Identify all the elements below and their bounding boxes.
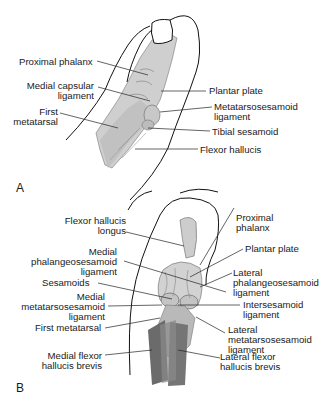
- panel-letter-b: B: [16, 381, 24, 395]
- label-a-metatarsosesamoid-ligament: Metatarsosesamoid ligament: [214, 102, 298, 122]
- anatomy-figure: Proximal phalanx Medial capsular ligamen…: [0, 0, 335, 398]
- label-a-tibial-sesamoid: Tibial sesamoid: [212, 127, 278, 137]
- label-b-medial-metatarsosesamoid-ligament: Medial metatarsosesamoid ligament: [10, 292, 105, 322]
- label-b-medial-flexor-hallucis-brevis: Medial flexor hallucis brevis: [30, 351, 102, 371]
- label-b-lateral-phalangeosesamoid-ligament: Lateral phalangeosesamoid ligament: [233, 268, 319, 298]
- label-a-medial-capsular-ligament: Medial capsular ligament: [20, 81, 94, 101]
- label-b-proximal-phalanx: Proximal phalanx: [236, 213, 273, 233]
- label-a-proximal-phalanx: Proximal phalanx: [19, 57, 93, 67]
- label-b-lateral-flexor-hallucis-brevis: Lateral flexor hallucis brevis: [220, 352, 280, 372]
- label-a-plantar-plate: Plantar plate: [209, 86, 263, 96]
- label-a-first-metatarsal: First metatarsal: [8, 107, 58, 127]
- label-b-plantar-plate: Plantar plate: [245, 244, 299, 254]
- label-b-intersesamoid-ligament: Intersesamoid ligament: [243, 300, 303, 320]
- label-b-first-metatarsal: First metatarsal: [35, 323, 101, 333]
- label-b-medial-phalangeosesamoid-ligament: Medial phalangeosesamoid ligament: [20, 247, 117, 277]
- label-b-flexor-hallucis-longus: Flexor hallucis longus: [40, 216, 126, 236]
- panel-letter-a: A: [16, 181, 24, 195]
- label-b-sesamoids: Sesamoids: [42, 278, 89, 288]
- label-a-flexor-hallucis: Flexor hallucis: [200, 145, 261, 155]
- panel-a-artwork: [60, 16, 212, 200]
